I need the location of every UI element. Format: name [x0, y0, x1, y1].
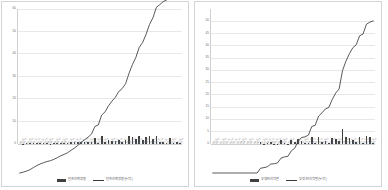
- legend-label-line-right: 부정/비리적발(누적): [299, 178, 326, 182]
- y-tick-label: 20: [13, 97, 16, 100]
- legend-swatch-line-icon: [286, 180, 297, 181]
- plot-area-right: [211, 9, 375, 144]
- legend-swatch-line-icon: [93, 180, 104, 181]
- x-axis-labels-right: '00.上'00.下'01.上'01.下'02.上'02.下'03.上'03.下…: [211, 144, 375, 168]
- chart-panel-left: 0102030405060 '00.上'00.下'01.上'01.下'02.上'…: [1, 1, 189, 187]
- y-tick-label: 45: [206, 32, 209, 35]
- y-axis-labels-left: 0102030405060: [2, 9, 17, 144]
- two-chart-figure: 0102030405060 '00.上'00.下'01.上'01.下'02.上'…: [0, 0, 388, 190]
- y-tick-label: 50: [206, 20, 209, 23]
- legend-item-line-left[interactable]: 인프라확정량(누적): [93, 178, 132, 182]
- legend-swatch-bar-icon: [57, 179, 66, 182]
- legend-left: 인프라확정량 인프라확정량(누적): [2, 178, 188, 182]
- legend-label-bar-right: 부정/비리적발: [261, 178, 280, 182]
- y-tick-label: 35: [206, 56, 209, 59]
- legend-label-bar-left: 인프라확정량: [68, 178, 86, 182]
- y-tick-label: 50: [13, 30, 16, 33]
- y-tick-label: 60: [13, 7, 16, 10]
- y-tick-label: 5: [207, 130, 209, 133]
- x-tick-label: '23.下: [373, 138, 379, 146]
- y-tick-label: 40: [13, 52, 16, 55]
- y-tick-label: 25: [206, 81, 209, 84]
- legend-item-bar-right[interactable]: 부정/비리적발: [250, 178, 280, 182]
- y-tick-label: 0: [14, 142, 16, 145]
- y-tick-label: 10: [13, 120, 16, 123]
- y-tick-label: 40: [206, 44, 209, 47]
- y-tick-label: 20: [206, 93, 209, 96]
- x-tick-label: '23.下: [180, 138, 186, 146]
- legend-swatch-bar-icon: [250, 179, 259, 182]
- y-tick-label: 15: [206, 105, 209, 108]
- y-tick-label: 30: [13, 75, 16, 78]
- legend-right: 부정/비리적발 부정/비리적발(누적): [195, 178, 381, 182]
- y-tick-label: 30: [206, 69, 209, 72]
- chart-panel-right: 05101520253035404550 '00.上'00.下'01.上'01.…: [194, 1, 382, 187]
- y-axis-labels-right: 05101520253035404550: [195, 9, 210, 144]
- x-axis-labels-left: '00.上'00.下'01.上'01.下'02.上'02.下'03.上'03.下…: [18, 144, 182, 168]
- legend-item-line-right[interactable]: 부정/비리적발(누적): [286, 178, 326, 182]
- plot-area-left: [18, 9, 182, 144]
- y-tick-label: 0: [207, 142, 209, 145]
- y-tick-label: 10: [206, 118, 209, 121]
- legend-label-line-left: 인프라확정량(누적): [106, 178, 132, 182]
- legend-item-bar-left[interactable]: 인프라확정량: [57, 178, 86, 182]
